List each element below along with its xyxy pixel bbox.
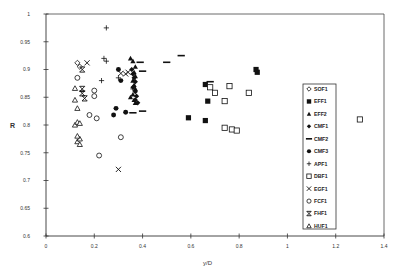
legend-label: CMF1 bbox=[314, 123, 328, 129]
y-tick-label: 0.65 bbox=[20, 205, 30, 211]
x-tick-label: 0.8 bbox=[236, 243, 243, 249]
legend-label: EFF2 bbox=[314, 111, 327, 117]
x-tick-label: 0.6 bbox=[187, 243, 194, 249]
y-tick-label: 1 bbox=[27, 11, 30, 17]
series-fhf1 bbox=[80, 67, 88, 101]
legend-item-fcf1: FCF1 bbox=[307, 198, 327, 204]
y-tick-label: 0.8 bbox=[23, 122, 30, 128]
x-axis-label: y/D bbox=[203, 260, 213, 266]
y-tick-label: 0.75 bbox=[20, 150, 30, 156]
x-tick-label: 0.4 bbox=[139, 243, 146, 249]
x-tick-label: 1 bbox=[286, 243, 289, 249]
x-tick-label: 0.2 bbox=[91, 243, 98, 249]
x-tick-label: 1.4 bbox=[381, 243, 388, 249]
legend-label: CMF3 bbox=[314, 148, 328, 154]
y-tick-label: 0.6 bbox=[23, 233, 30, 239]
legend-label: FHF1 bbox=[314, 210, 327, 216]
x-tick-label: 1.2 bbox=[332, 243, 339, 249]
legend-item-dbf1: DBF1 bbox=[307, 173, 328, 179]
legend-label: EGF1 bbox=[314, 186, 328, 192]
legend-label: APF1 bbox=[314, 161, 327, 167]
series-cmf2 bbox=[129, 56, 214, 113]
y-tick-label: 0.95 bbox=[20, 39, 30, 45]
legend-label: CMF2 bbox=[314, 136, 328, 142]
series-dbf1 bbox=[208, 84, 363, 134]
legend-label: FCF1 bbox=[314, 198, 327, 204]
y-tick-label: 0.85 bbox=[20, 94, 30, 100]
legend-label: SOF1 bbox=[314, 86, 328, 92]
legend: SOF1EFF1EFF2CMF1CMF2CMF3APF1DBF1EGF1FCF1… bbox=[303, 84, 336, 229]
y-axis-label: R bbox=[10, 122, 15, 129]
legend-label: DBF1 bbox=[314, 173, 328, 179]
legend-label: EFF1 bbox=[314, 98, 327, 104]
legend-label: HUF1 bbox=[314, 223, 328, 229]
legend-item-eff1: EFF1 bbox=[307, 98, 327, 104]
y-tick-label: 0.7 bbox=[23, 177, 30, 183]
y-tick-label: 0.9 bbox=[23, 66, 30, 72]
scatter-chart: 00.20.40.60.811.21.40.60.650.70.750.80.8… bbox=[0, 0, 399, 279]
x-tick-label: 0 bbox=[45, 243, 48, 249]
